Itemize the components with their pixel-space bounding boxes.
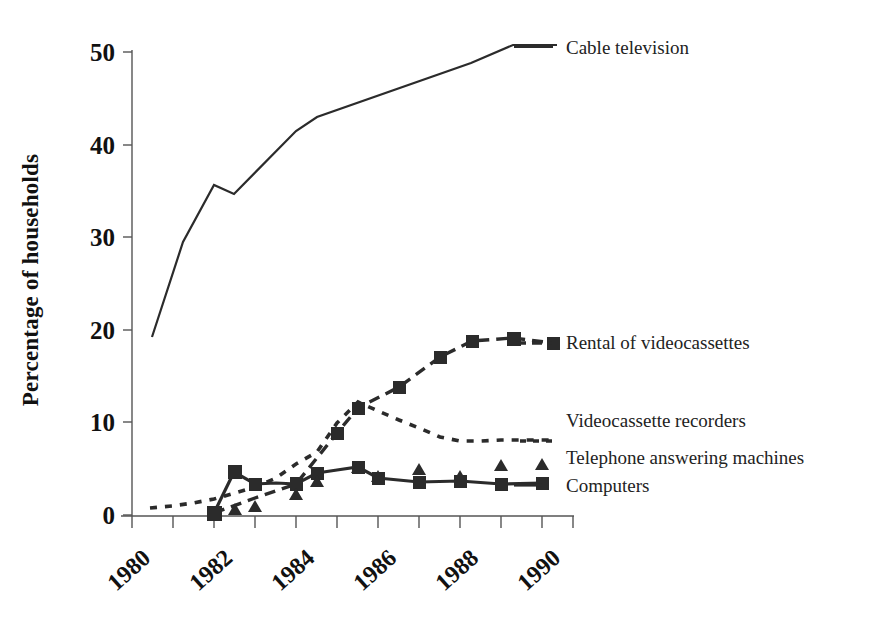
rental-markers [208,332,560,520]
legend-item-telephone-answering-machines[interactable]: Telephone answering machines [566,447,804,468]
y-axis-ticks: 0 10 20 30 40 50 [90,39,132,529]
rental-marker [466,335,479,348]
telephone-marker [248,500,262,512]
x-tick-label-1990: 1990 [512,544,565,595]
y-tick-label-20: 20 [90,317,115,344]
videocassette-recorders-line [150,402,553,508]
series-cable-television [152,45,557,337]
telephone-marker [535,458,549,470]
rental-marker [434,351,447,364]
y-tick-label-0: 0 [103,502,116,529]
rental-marker [352,402,365,415]
series-rental-of-videocassettes [208,332,560,520]
x-axis-labels: 1980 1982 1984 1986 1988 1990 [102,544,565,595]
legend-item-computers[interactable]: Computers [514,475,649,496]
telephone-marker [494,459,508,471]
line-chart: Percentage of households 0 10 20 30 40 5… [0,0,877,640]
y-axis-title-text: Percentage of households [18,154,43,406]
computers-marker [413,476,426,489]
cable-television-line [152,45,557,337]
rental-marker [331,427,344,440]
telephone-answering-machines-label: Telephone answering machines [566,447,804,468]
computers-marker [249,478,262,491]
computers-marker [228,465,242,479]
y-tick-label-40: 40 [90,132,115,159]
telephone-marker [412,463,426,475]
videocassette-recorders-label: Videocassette recorders [566,410,746,431]
y-axis-title: Percentage of households [18,154,43,406]
legend-item-videocassette-recorders[interactable]: Videocassette recorders [520,410,746,441]
x-tick-label-1984: 1984 [266,544,319,595]
series-videocassette-recorders [150,402,553,508]
computers-marker [207,506,222,521]
x-tick-label-1986: 1986 [348,544,401,595]
x-tick-label-1982: 1982 [184,544,237,595]
y-tick-label-30: 30 [90,224,115,251]
x-tick-label-1988: 1988 [430,544,483,595]
rental-of-videocassettes-label: Rental of videocassettes [566,332,750,353]
legend-item-cable-television[interactable]: Cable television [514,37,689,58]
computers-marker [290,477,303,490]
computers-marker [495,478,508,491]
computers-label: Computers [566,475,649,496]
y-tick-label-10: 10 [90,409,115,436]
y-tick-label-50: 50 [90,39,115,66]
chart-figure: Percentage of households 0 10 20 30 40 5… [0,0,877,640]
x-tick-label-1980: 1980 [102,544,155,595]
rental-marker [393,381,406,394]
x-axis-ticks [132,516,573,528]
cable-television-label: Cable television [566,37,689,58]
